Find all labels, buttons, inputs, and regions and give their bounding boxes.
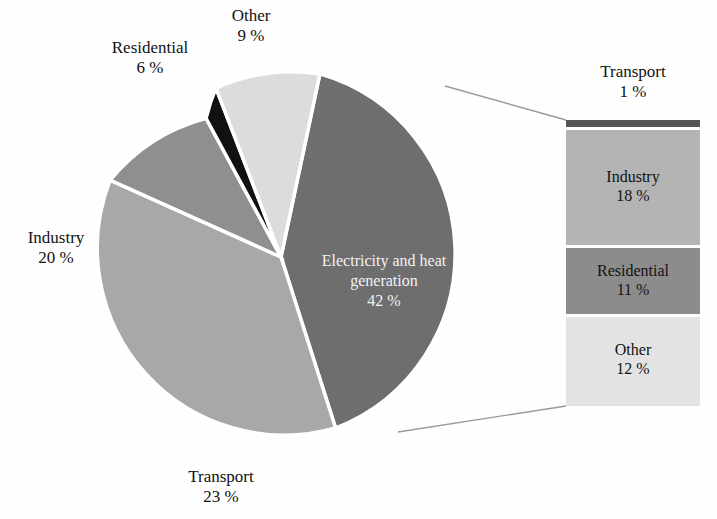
pie-center-label-line2: generation — [289, 271, 479, 291]
bar-label-industry-name: Industry — [606, 168, 659, 185]
bar-segment-transport[interactable] — [566, 120, 700, 127]
pie-label-residential-value: 6 % — [85, 58, 215, 78]
bar-label-residential: Residential 11 % — [566, 262, 700, 300]
pie-label-industry-value: 20 % — [4, 248, 108, 268]
pie-chart-figure: Other 9 % Residential 6 % Industry 20 % … — [0, 0, 717, 519]
pie-label-industry-name: Industry — [28, 228, 85, 247]
bar-label-transport-name: Transport — [600, 62, 666, 81]
bar-label-other: Other 12 % — [566, 341, 700, 379]
bar-label-industry: Industry 18 % — [566, 168, 700, 206]
bar-label-transport-value: 1 % — [567, 82, 699, 102]
pie-center-label-line1: Electricity and heat — [322, 252, 446, 269]
pie-label-transport-value: 23 % — [160, 487, 282, 507]
pie-label-residential-name: Residential — [112, 38, 188, 57]
bar-label-transport: Transport 1 % — [567, 62, 699, 102]
bar-label-other-value: 12 % — [566, 360, 700, 379]
pie-label-transport: Transport 23 % — [160, 467, 282, 507]
bar-label-other-name: Other — [615, 341, 651, 358]
bar-label-residential-value: 11 % — [566, 281, 700, 300]
leader-line-top — [445, 86, 566, 120]
bar-label-industry-value: 18 % — [566, 187, 700, 206]
pie-center-label-value: 42 % — [289, 291, 479, 311]
leader-line-bottom — [398, 406, 566, 432]
pie-center-label-electricity-and-heat-generation: Electricity and heat generation 42 % — [289, 251, 479, 311]
pie-label-other-name: Other — [232, 6, 271, 25]
pie-label-transport-name: Transport — [188, 467, 254, 486]
bar-label-residential-name: Residential — [597, 262, 669, 279]
pie-label-residential: Residential 6 % — [85, 38, 215, 78]
pie-label-industry: Industry 20 % — [4, 228, 108, 268]
